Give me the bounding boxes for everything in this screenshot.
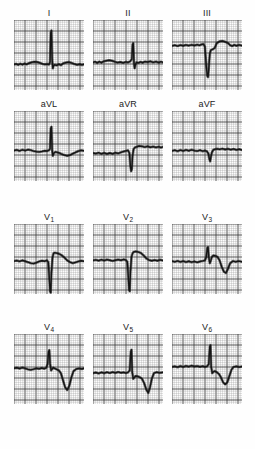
- lead-label-avl: aVL: [14, 99, 84, 111]
- lead-panel-avf: [172, 111, 242, 181]
- lead-panel-iii: [172, 20, 242, 90]
- ecg-trace-avf: [172, 111, 242, 181]
- lead-label-v5: V5: [93, 322, 163, 334]
- lead-label-i: I: [14, 8, 84, 20]
- lead-label-subscript: 4: [50, 326, 54, 333]
- lead-label-subscript: 5: [129, 326, 133, 333]
- lead-label-subscript: 3: [208, 216, 212, 223]
- lead-label-iii: III: [172, 8, 242, 20]
- ecg-trace-ii: [93, 20, 163, 90]
- ecg-trace-v4: [14, 334, 84, 404]
- lead-panel-i: [14, 20, 84, 90]
- lead-panel-ii: [93, 20, 163, 90]
- lead-label-ii: II: [93, 8, 163, 20]
- lead-label-avr: aVR: [93, 99, 163, 111]
- lead-label-v6: V6: [172, 322, 242, 334]
- ecg-trace-avr: [93, 111, 163, 181]
- lead-label-subscript: 2: [129, 216, 133, 223]
- ecg-trace-v3: [172, 224, 242, 294]
- lead-label-v2: V2: [93, 212, 163, 224]
- lead-panel-v5: [93, 334, 163, 404]
- ecg-sheet: IIIIIIaVLaVRaVFV1V2V3V4V5V6: [0, 0, 255, 449]
- lead-panel-v2: [93, 224, 163, 294]
- lead-panel-v6: [172, 334, 242, 404]
- ecg-trace-iii: [172, 20, 242, 90]
- ecg-trace-avl: [14, 111, 84, 181]
- lead-label-v3: V3: [172, 212, 242, 224]
- lead-panel-avl: [14, 111, 84, 181]
- lead-panel-v1: [14, 224, 84, 294]
- lead-label-v1: V1: [14, 212, 84, 224]
- lead-label-v4: V4: [14, 322, 84, 334]
- ecg-trace-v1: [14, 224, 84, 294]
- ecg-trace-v6: [172, 334, 242, 404]
- ecg-trace-i: [14, 20, 84, 90]
- lead-panel-avr: [93, 111, 163, 181]
- lead-label-avf: aVF: [172, 99, 242, 111]
- lead-label-subscript: 6: [208, 326, 212, 333]
- lead-panel-v4: [14, 334, 84, 404]
- ecg-trace-v5: [93, 334, 163, 404]
- ecg-trace-v2: [93, 224, 163, 294]
- lead-panel-v3: [172, 224, 242, 294]
- lead-label-subscript: 1: [50, 216, 54, 223]
